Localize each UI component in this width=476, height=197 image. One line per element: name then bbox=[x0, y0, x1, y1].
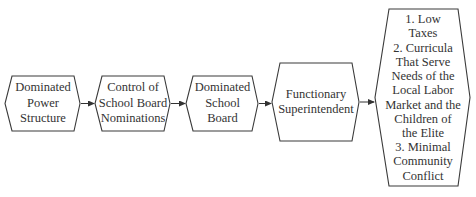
node-2-line: Control of bbox=[99, 80, 167, 96]
node-1-line: Structure bbox=[15, 111, 71, 127]
node-3-line: School bbox=[195, 96, 251, 112]
node-2-line: School Board bbox=[99, 96, 167, 112]
node-3-label: Dominated School Board bbox=[188, 76, 257, 131]
node-1-label: Dominated Power Structure bbox=[8, 76, 78, 131]
node-5-line: Needs of the bbox=[385, 69, 461, 83]
node-1-line: Dominated bbox=[15, 80, 71, 96]
node-2-line: Nominations bbox=[99, 111, 167, 127]
node-1-line: Power bbox=[15, 96, 71, 112]
node-4-line: Functionary bbox=[278, 87, 354, 103]
node-5-line: 2. Curricula bbox=[385, 41, 461, 55]
node-4-line: Superintendent bbox=[278, 102, 354, 118]
node-5-line: Conflict bbox=[385, 169, 461, 183]
node-5-line: That Serve bbox=[385, 55, 461, 69]
node-4-label: Functionary Superintendent bbox=[274, 63, 358, 141]
node-5-line: Taxes bbox=[385, 26, 461, 40]
node-5-line: 3. Minimal bbox=[385, 140, 461, 154]
node-5-line: the Elite bbox=[385, 126, 461, 140]
node-5-line: Local Labor bbox=[385, 83, 461, 97]
node-2-label: Control of School Board Nominations bbox=[96, 76, 170, 131]
node-5-line: 1. Low bbox=[385, 12, 461, 26]
node-5-line: Children of bbox=[385, 112, 461, 126]
node-5-label: 1. Low Taxes 2. Curricula That Serve Nee… bbox=[378, 9, 468, 186]
node-3-line: Dominated bbox=[195, 80, 251, 96]
node-5-line: Market and the bbox=[385, 98, 461, 112]
node-5-line: Community bbox=[385, 154, 461, 168]
node-3-line: Board bbox=[195, 111, 251, 127]
